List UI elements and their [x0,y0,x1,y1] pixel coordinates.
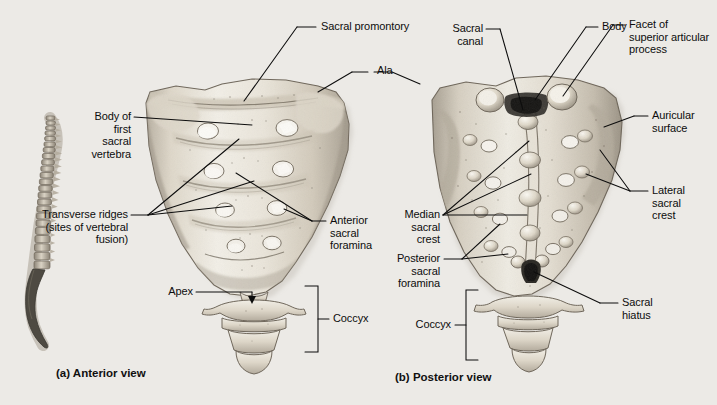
label-median-sacral-crest: Median sacral crest [370,208,440,246]
label-ala: Ala [377,64,393,77]
label-anterior-sacral-foramina: Anterior sacral foramina [330,214,372,252]
label-apex: Apex [130,285,193,298]
leader-ala-to-posterior [392,72,420,84]
label-lateral-sacral-crest: Lateral sacral crest [652,184,685,222]
label-posterior-sacral-foramina: Posterior sacral foramina [364,252,440,290]
caption-posterior-view: (b) Posterior view [395,371,492,383]
anatomy-figure-sacrum-coccyx: Sacral promontory Ala Body of first sacr… [0,0,717,405]
coccyx-posterior-specimen [474,296,584,372]
label-transverse-ridges: Transverse ridges (sites of vertebral fu… [0,208,128,246]
figure-artwork [0,0,717,405]
sacrum-anterior-specimen [140,78,360,303]
sacrum-posterior-specimen [426,72,632,304]
label-sacral-canal: Sacral canal [398,22,483,47]
label-coccyx-anterior: Coccyx [333,312,368,325]
bracket-coccyx-anterior [305,286,318,352]
bracket-coccyx-posterior [466,290,478,360]
leader-ala-to-anterior [318,72,352,92]
label-coccyx-posterior: Coccyx [392,318,451,331]
caption-anterior-view: (a) Anterior view [56,367,146,379]
label-sacral-hiatus: Sacral hiatus [622,296,653,321]
label-auricular-surface: Auricular surface [652,109,695,134]
coccyx-anterior-specimen [202,300,306,374]
label-body-posterior: Body [602,20,627,33]
label-body-of-first-sacral-vertebra: Body of first sacral vertebra [0,110,131,160]
label-facet-of-superior-articular-process: Facet of superior articular process [629,18,709,56]
label-sacral-promontory: Sacral promontory [321,20,409,33]
